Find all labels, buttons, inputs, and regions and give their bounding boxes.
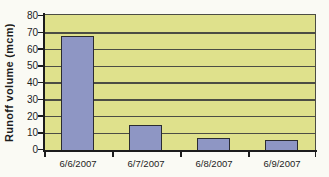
x-tick-mark bbox=[315, 152, 317, 157]
plot-area bbox=[44, 14, 316, 151]
x-tick-label: 6/7/2007 bbox=[112, 158, 180, 170]
bar bbox=[61, 36, 94, 150]
y-tick-label: 40 bbox=[0, 77, 38, 88]
y-tick-mark bbox=[38, 115, 43, 117]
bar bbox=[265, 140, 298, 150]
y-tick-label: 70 bbox=[0, 27, 38, 38]
y-tick-mark bbox=[38, 48, 43, 50]
x-tick-mark bbox=[44, 152, 46, 157]
y-tick-label: 20 bbox=[0, 111, 38, 122]
y-tick-mark bbox=[38, 65, 43, 67]
y-tick-label: 60 bbox=[0, 44, 38, 55]
x-tick-mark bbox=[112, 152, 114, 157]
bar-chart: Runoff volume (mcm) 010203040506070806/6… bbox=[0, 0, 329, 177]
x-tick-mark bbox=[248, 152, 250, 157]
y-tick-mark bbox=[38, 149, 43, 151]
x-tick-label: 6/9/2007 bbox=[248, 158, 316, 170]
y-tick-mark bbox=[38, 32, 43, 34]
y-tick-label: 50 bbox=[0, 60, 38, 71]
bar bbox=[129, 125, 162, 150]
x-tick-label: 6/8/2007 bbox=[180, 158, 248, 170]
y-tick-label: 10 bbox=[0, 127, 38, 138]
y-tick-label: 0 bbox=[0, 144, 38, 155]
y-tick-label: 30 bbox=[0, 94, 38, 105]
y-tick-mark bbox=[38, 132, 43, 134]
y-tick-mark bbox=[38, 99, 43, 101]
bar bbox=[197, 138, 230, 150]
y-tick-label: 80 bbox=[0, 10, 38, 21]
y-tick-mark bbox=[38, 82, 43, 84]
x-tick-mark bbox=[180, 152, 182, 157]
x-tick-label: 6/6/2007 bbox=[44, 158, 112, 170]
gridline bbox=[45, 32, 315, 34]
y-tick-mark bbox=[38, 15, 43, 17]
